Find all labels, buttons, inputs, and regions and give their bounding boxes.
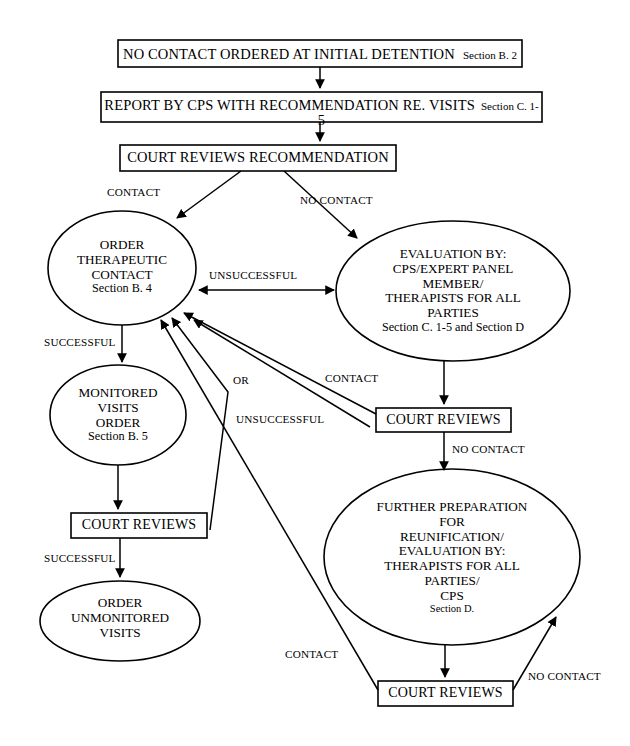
node-court-reviews-bottom-shape bbox=[378, 681, 513, 706]
flowchart-canvas: NO CONTACT ORDERED AT INITIAL DETENTIONS… bbox=[0, 0, 630, 746]
edge-label-contact-mid: CONTACT bbox=[325, 372, 378, 384]
node-court-reviews-left-shape bbox=[71, 513, 207, 538]
edge-label-or-mid: OR bbox=[233, 374, 249, 386]
edge-label-successful-low: SUCCESSFUL bbox=[44, 552, 116, 564]
edge-box3-to-therapeutic bbox=[177, 171, 241, 218]
flowchart-graphics bbox=[0, 0, 630, 746]
edge-label-no-contact-right: NO CONTACT bbox=[452, 443, 525, 455]
node-evaluation-by-shape bbox=[336, 221, 570, 361]
node-court-reviews-right-shape bbox=[376, 408, 511, 432]
node-order-unmonitored-visits-shape bbox=[40, 581, 200, 661]
edge-label-unsuccessful-low: UNSUCCESSFUL bbox=[236, 413, 324, 425]
node-further-preparation-shape bbox=[324, 469, 580, 645]
node-no-contact-ordered-shape bbox=[118, 40, 522, 67]
edge-label-no-contact-bottom: NO CONTACT bbox=[528, 670, 601, 682]
node-court-reviews-recommendation-shape bbox=[120, 145, 396, 171]
edge-label-no-contact-top: NO CONTACT bbox=[300, 194, 373, 206]
edge-label-contact-top: CONTACT bbox=[107, 186, 160, 198]
edge-label-contact-bottom: CONTACT bbox=[285, 648, 338, 660]
edge-court-right-to-therapeutic bbox=[184, 313, 376, 414]
edge-label-unsuccessful-mid: UNSUCCESSFUL bbox=[209, 269, 297, 281]
node-order-therapeutic-contact-shape bbox=[48, 211, 196, 325]
edge-label-successful-left: SUCCESSFUL bbox=[44, 336, 116, 348]
node-report-by-cps-shape bbox=[101, 92, 542, 122]
node-monitored-visits-order-shape bbox=[50, 365, 186, 465]
